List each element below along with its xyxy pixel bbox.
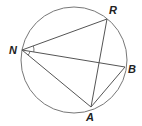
diagram-canvas: N R B A	[0, 0, 142, 126]
label-B: B	[128, 63, 136, 75]
circumscribed-circle	[21, 7, 127, 113]
circle-geometry-figure: N R B A	[0, 0, 142, 126]
label-A: A	[85, 111, 94, 123]
angle-mark-RNB	[33, 46, 34, 52]
segment-NB	[22, 50, 125, 67]
angle-mark-BNA	[28, 51, 30, 55]
label-N: N	[9, 44, 18, 56]
segment-RA	[91, 19, 107, 107]
segment-NA	[22, 50, 91, 107]
label-R: R	[109, 4, 117, 16]
